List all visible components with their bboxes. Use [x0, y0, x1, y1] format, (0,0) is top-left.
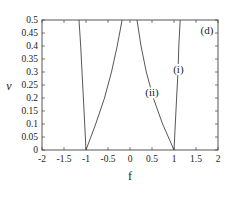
curve-i-branch: [174, 20, 180, 150]
curve-ii-branch: [137, 20, 174, 150]
y-tick-label: 0.5: [26, 15, 38, 25]
annotation-label: (i): [173, 63, 184, 76]
x-tick-label: -2: [38, 154, 46, 164]
y-tick-label: 0.3: [26, 67, 38, 77]
annotation-label: (d): [201, 24, 214, 37]
annotation-label: (ii): [145, 86, 159, 99]
y-tick-label: 0.35: [21, 54, 38, 64]
curves: [79, 20, 180, 150]
y-tick-label: 0.4: [26, 41, 38, 51]
y-tick-label: 0: [33, 145, 38, 155]
y-axis-ticks: 00.050.10.150.20.250.30.350.40.450.5: [21, 15, 218, 155]
curve-i-branch: [79, 20, 86, 150]
x-tick-label: -1.5: [56, 154, 71, 164]
x-axis-label: f: [128, 169, 132, 183]
y-tick-label: 0.05: [21, 132, 38, 142]
y-tick-label: 0.2: [26, 93, 38, 103]
x-tick-label: 1.5: [190, 154, 202, 164]
y-tick-label: 0.45: [21, 28, 38, 38]
x-axis-ticks: -2-1.5-1-0.500.511.52: [38, 20, 221, 164]
y-tick-label: 0.15: [21, 106, 38, 116]
y-tick-label: 0.25: [21, 80, 38, 90]
x-tick-label: 1: [172, 154, 177, 164]
x-tick-label: 2: [216, 154, 221, 164]
plot-frame: [42, 20, 218, 150]
plot-border: [42, 20, 218, 150]
curve-ii-branch: [86, 20, 122, 150]
chart: -2-1.5-1-0.500.511.52 00.050.10.150.20.2…: [0, 0, 236, 201]
x-tick-label: -1: [82, 154, 90, 164]
y-axis-label: v: [6, 79, 12, 93]
x-tick-label: 0: [128, 154, 133, 164]
y-tick-label: 0.1: [26, 119, 38, 129]
x-tick-label: 0.5: [146, 154, 158, 164]
x-tick-label: -0.5: [100, 154, 115, 164]
